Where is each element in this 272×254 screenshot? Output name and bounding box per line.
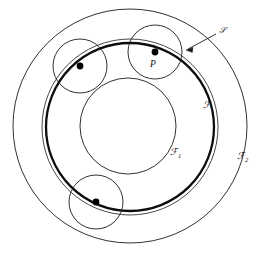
label-curve-f1-subscript: 1 <box>178 152 181 159</box>
s-leader-arrow <box>186 34 216 52</box>
label-curve-f2-subscript: 2 <box>245 156 249 163</box>
dot-upper-left <box>77 63 84 70</box>
circle-f1-inner <box>80 78 176 174</box>
figure-root: P ℱ ℱ 1 ℱ 2 𝒮 <box>0 0 272 254</box>
circle-f-bold <box>46 43 214 211</box>
dot-lower-left <box>93 199 100 206</box>
dot-p <box>152 49 159 56</box>
geometry-diagram: P ℱ ℱ 1 ℱ 2 𝒮 <box>0 0 272 254</box>
label-circle-s: 𝒮 <box>219 25 228 35</box>
label-point-p: P <box>149 59 156 69</box>
circle-f-thin <box>42 39 218 215</box>
